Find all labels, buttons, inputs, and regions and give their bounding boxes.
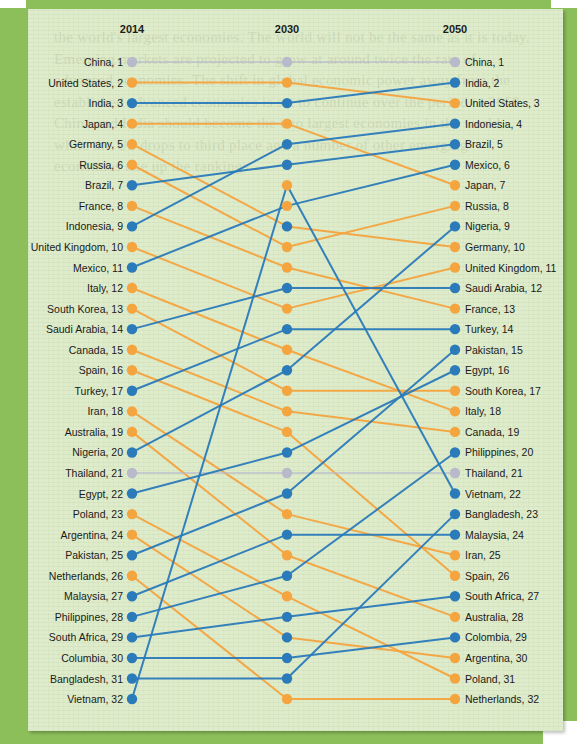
rank-dot[interactable] xyxy=(450,488,460,498)
rank-dot[interactable] xyxy=(282,98,292,108)
rank-dot[interactable] xyxy=(450,653,460,663)
rank-dot[interactable] xyxy=(282,242,292,252)
rank-dot[interactable] xyxy=(127,386,137,396)
rank-dot[interactable] xyxy=(127,57,137,67)
rank-dot[interactable] xyxy=(450,550,460,560)
rank-dot[interactable] xyxy=(282,139,292,149)
rank-dot[interactable] xyxy=(127,488,137,498)
rank-dot[interactable] xyxy=(282,427,292,437)
rank-dot[interactable] xyxy=(127,694,137,704)
rank-dot[interactable] xyxy=(127,303,137,313)
rank-dot[interactable] xyxy=(127,529,137,539)
rank-dot[interactable] xyxy=(282,221,292,231)
rank-dot[interactable] xyxy=(282,118,292,128)
rank-dot[interactable] xyxy=(127,98,137,108)
rank-dot[interactable] xyxy=(450,139,460,149)
rank-dot[interactable] xyxy=(450,509,460,519)
rank-dot[interactable] xyxy=(127,365,137,375)
rank-dot[interactable] xyxy=(282,591,292,601)
rank-dot[interactable] xyxy=(127,571,137,581)
rank-dot[interactable] xyxy=(127,77,137,87)
rank-dot[interactable] xyxy=(450,612,460,622)
rank-dot[interactable] xyxy=(450,324,460,334)
rank-dot[interactable] xyxy=(282,612,292,622)
rank-dot[interactable] xyxy=(282,509,292,519)
rank-dot[interactable] xyxy=(450,180,460,190)
rank-dot[interactable] xyxy=(282,653,292,663)
rank-dot[interactable] xyxy=(127,612,137,622)
rank-dot[interactable] xyxy=(450,694,460,704)
rank-dot[interactable] xyxy=(450,529,460,539)
rank-dot[interactable] xyxy=(282,386,292,396)
rank-dot[interactable] xyxy=(450,365,460,375)
rank-dot[interactable] xyxy=(282,694,292,704)
rank-line xyxy=(287,514,455,678)
rank-dot[interactable] xyxy=(282,550,292,560)
rank-dot[interactable] xyxy=(282,324,292,334)
rank-dot[interactable] xyxy=(282,632,292,642)
rank-dot[interactable] xyxy=(127,242,137,252)
rank-dot[interactable] xyxy=(127,653,137,663)
rank-dot[interactable] xyxy=(450,160,460,170)
rank-dot[interactable] xyxy=(282,57,292,67)
rank-dot[interactable] xyxy=(282,488,292,498)
rank-dot[interactable] xyxy=(450,386,460,396)
rank-dot[interactable] xyxy=(127,468,137,478)
rank-dot[interactable] xyxy=(127,406,137,416)
rank-dot[interactable] xyxy=(282,262,292,272)
rank-dot[interactable] xyxy=(127,160,137,170)
rank-dot[interactable] xyxy=(127,345,137,355)
rank-dot[interactable] xyxy=(127,139,137,149)
rank-dot[interactable] xyxy=(127,550,137,560)
rank-dot[interactable] xyxy=(450,345,460,355)
rank-dot[interactable] xyxy=(127,673,137,683)
rank-dot[interactable] xyxy=(450,447,460,457)
rank-dot[interactable] xyxy=(450,632,460,642)
rank-dot[interactable] xyxy=(127,632,137,642)
rank-dot[interactable] xyxy=(282,365,292,375)
rank-dot[interactable] xyxy=(282,345,292,355)
rank-dot[interactable] xyxy=(450,571,460,581)
rank-dot[interactable] xyxy=(127,118,137,128)
rank-dot[interactable] xyxy=(450,201,460,211)
left-label-rank-30: Columbia, 30 xyxy=(61,652,123,664)
rank-dot[interactable] xyxy=(282,447,292,457)
rank-dot[interactable] xyxy=(127,201,137,211)
left-label-rank-1: China, 1 xyxy=(84,56,123,68)
rank-dot[interactable] xyxy=(282,160,292,170)
rank-dot[interactable] xyxy=(450,283,460,293)
rank-dot[interactable] xyxy=(282,201,292,211)
rank-dot[interactable] xyxy=(127,427,137,437)
rank-dot[interactable] xyxy=(127,221,137,231)
rank-dot[interactable] xyxy=(282,673,292,683)
rank-dot[interactable] xyxy=(127,324,137,334)
rank-dot[interactable] xyxy=(127,591,137,601)
right-label-rank-8: Russia, 8 xyxy=(465,200,509,212)
rank-dot[interactable] xyxy=(450,98,460,108)
rank-dot[interactable] xyxy=(282,406,292,416)
rank-dot[interactable] xyxy=(127,283,137,293)
rank-dot[interactable] xyxy=(127,447,137,457)
rank-dot[interactable] xyxy=(450,221,460,231)
rank-dot[interactable] xyxy=(282,283,292,293)
rank-dot[interactable] xyxy=(127,509,137,519)
rank-dot[interactable] xyxy=(282,571,292,581)
rank-dot[interactable] xyxy=(282,77,292,87)
rank-dot[interactable] xyxy=(450,673,460,683)
rank-dot[interactable] xyxy=(450,118,460,128)
rank-dot[interactable] xyxy=(450,57,460,67)
rank-dot[interactable] xyxy=(127,180,137,190)
rank-dot[interactable] xyxy=(450,468,460,478)
rank-dot[interactable] xyxy=(282,180,292,190)
rank-dot[interactable] xyxy=(450,303,460,313)
rank-dot[interactable] xyxy=(450,591,460,601)
rank-dot[interactable] xyxy=(450,427,460,437)
rank-dot[interactable] xyxy=(127,262,137,272)
rank-dot[interactable] xyxy=(450,406,460,416)
rank-dot[interactable] xyxy=(450,262,460,272)
rank-dot[interactable] xyxy=(282,303,292,313)
rank-dot[interactable] xyxy=(282,468,292,478)
rank-dot[interactable] xyxy=(450,77,460,87)
rank-dot[interactable] xyxy=(450,242,460,252)
rank-dot[interactable] xyxy=(282,529,292,539)
